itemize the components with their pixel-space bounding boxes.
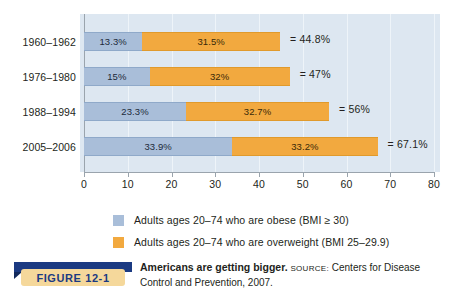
category-label: 1976–1980 [16,65,76,89]
x-tick-label: 80 [419,178,449,190]
legend-item-obese: Adults ages 20–74 who are obese (BMI ≥ 3… [113,214,349,227]
caption-title: Americans are getting bigger. [140,261,288,273]
x-tick-label: 10 [113,178,143,190]
caption-source-label: Source: [290,264,329,273]
x-tick [390,172,391,177]
stacked-bar[interactable]: 23.3%32.7% [84,102,329,121]
bar-segment-overweight[interactable]: 33.2% [232,137,377,156]
category-label: 1960–1962 [16,30,76,54]
legend-label-obese: Adults ages 20–74 who are obese (BMI ≥ 3… [134,214,349,227]
bar-total-label: = 67.1% [388,135,428,154]
bar-row: 1976–198015%32%= 47% [0,65,462,89]
bar-total-label: = 47% [300,65,331,84]
legend-item-overweight: Adults ages 20–74 who are overweight (BM… [113,236,389,249]
x-tick-label: 0 [69,178,99,190]
x-tick-label: 40 [244,178,274,190]
bar-total-label: = 44.8% [290,30,330,49]
figure-number-label: FIGURE 12-1 [36,272,109,284]
x-tick [434,172,435,177]
x-tick [215,172,216,177]
x-tick [128,172,129,177]
legend-swatch-overweight-icon [113,237,124,248]
bar-segment-overweight[interactable]: 31.5% [142,32,280,51]
bar-total-label: = 56% [339,100,370,119]
x-tick [303,172,304,177]
x-tick-label: 70 [375,178,405,190]
x-tick [84,172,85,177]
x-tick [347,172,348,177]
bar-row: 1988–199423.3%32.7%= 56% [0,100,462,124]
figure-container: 01020304050607080 1960–196213.3%31.5%= 4… [0,0,462,301]
stacked-bar[interactable]: 33.9%33.2% [84,137,378,156]
category-label: 1988–1994 [16,100,76,124]
bar-segment-obese[interactable]: 33.9% [84,137,232,156]
bar-row: 1960–196213.3%31.5%= 44.8% [0,30,462,54]
bar-segment-obese[interactable]: 23.3% [84,102,186,121]
stacked-bar[interactable]: 15%32% [84,67,290,86]
x-tick [172,172,173,177]
figure-number-badge: FIGURE 12-1 [21,269,125,286]
bar-segment-overweight[interactable]: 32.7% [186,102,329,121]
x-tick-label: 30 [200,178,230,190]
x-tick-label: 60 [332,178,362,190]
figure-caption: FIGURE 12-1 Americans are getting bigger… [0,262,462,301]
stacked-bar[interactable]: 13.3%31.5% [84,32,280,51]
x-tick-label: 50 [288,178,318,190]
category-label: 2005–2006 [16,135,76,159]
legend-swatch-obese-icon [113,215,124,226]
bar-segment-overweight[interactable]: 32% [150,67,290,86]
bar-segment-obese[interactable]: 15% [84,67,150,86]
bar-segment-obese[interactable]: 13.3% [84,32,142,51]
x-tick [259,172,260,177]
bar-row: 2005–200633.9%33.2%= 67.1% [0,135,462,159]
x-tick-label: 20 [157,178,187,190]
caption-text: Americans are getting bigger. Source: Ce… [140,261,450,289]
legend-label-overweight: Adults ages 20–74 who are overweight (BM… [134,236,389,249]
